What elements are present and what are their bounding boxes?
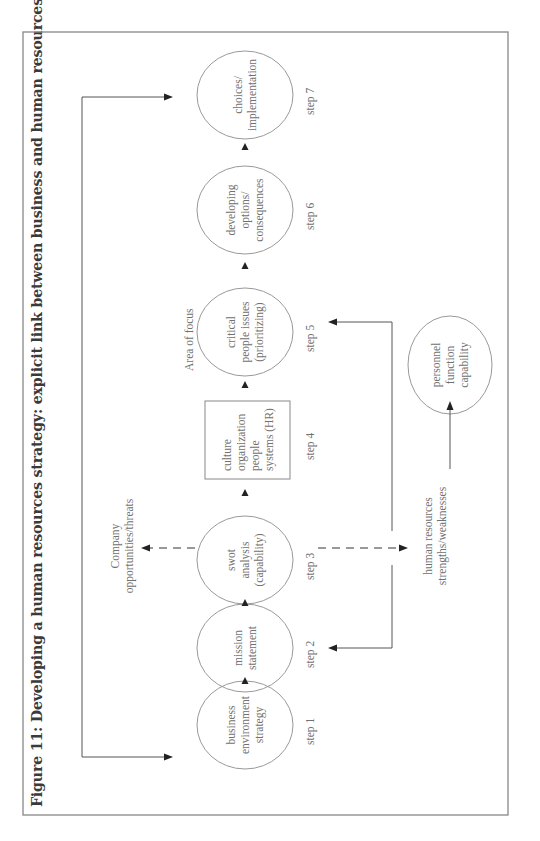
area-of-focus-label: Area of focus: [182, 308, 196, 371]
personnel-line: capability: [457, 342, 471, 387]
step-3-line: (capability): [252, 534, 266, 587]
bottom-bracket-arrow-step5: [328, 319, 337, 326]
step-label-6: step 6: [303, 203, 317, 230]
step-1-line: strategy: [252, 696, 266, 754]
step-label-4: step 4: [303, 433, 317, 460]
step-6-line: consequences: [252, 178, 266, 241]
step-3-line: swot: [224, 534, 238, 587]
top-bracket-arrow-step7: [164, 94, 173, 101]
personnel-line: personnel: [429, 342, 443, 387]
arrow-step5-step6: [242, 262, 249, 269]
top-bracket-line: [82, 97, 170, 757]
step-label-2: step 2: [303, 641, 317, 668]
arrow-step6-step7: [242, 143, 249, 150]
arrow-step4-step5: [242, 381, 249, 388]
step-7-line: choices/: [231, 59, 245, 131]
step-5-text: criticalpeople issues(prioritizing): [197, 288, 293, 376]
step-1-text: businessenvironmentstrategy: [197, 681, 293, 769]
step-3-text: swotanalysis(capability): [197, 516, 293, 604]
arrow-step3-step4: [242, 489, 249, 496]
hr-line: human resources: [421, 476, 435, 596]
step-1-line: business: [224, 696, 238, 754]
step-4-line: culture: [220, 408, 234, 471]
hr-arrowhead: [399, 545, 408, 552]
step-6-text: developingoptions/consequences: [197, 166, 293, 254]
step-5-line: (prioritizing): [252, 302, 266, 363]
step-label-3: step 3: [303, 553, 317, 580]
step-label-1: step 1: [303, 718, 317, 745]
diagram-canvas: Figure 11: Developing a human resources …: [0, 0, 540, 841]
step-label-7: step 7: [303, 88, 317, 115]
company-line: opportunities/threats: [122, 491, 136, 601]
step-7-text: choices/implementation: [197, 51, 293, 139]
company-line: Company: [108, 491, 122, 601]
step-6-line: options/: [238, 178, 252, 241]
company-annotation: Company opportunities/threats: [108, 491, 136, 601]
top-bracket-arrow-step1: [164, 754, 173, 761]
step-5-line: people issues: [238, 302, 252, 363]
company-arrowhead: [141, 545, 150, 552]
bottom-bracket-left: [336, 565, 392, 648]
step-6-line: developing: [224, 178, 238, 241]
step-2-line: statement: [245, 626, 259, 670]
step-4-text: cultureorganizationpeoplesystems (HR): [205, 401, 290, 479]
step-4-line: organization: [234, 408, 248, 471]
hr-annotation: human resources strengths/weaknesses: [421, 476, 449, 596]
hr-line: strengths/weaknesses: [435, 476, 449, 596]
step-4-line: systems (HR): [262, 408, 276, 471]
step-2-text: missionstatement: [197, 604, 293, 692]
step-5-line: critical: [224, 302, 238, 363]
personnel-line: function: [443, 342, 457, 387]
step-4-line: people: [248, 408, 262, 471]
bottom-bracket-arrow-step2: [328, 645, 337, 652]
personnel-text: personnelfunctioncapability: [408, 316, 492, 414]
step-3-line: analysis: [238, 534, 252, 587]
step-1-line: environment: [238, 696, 252, 754]
step-label-5: step 5: [303, 325, 317, 352]
step-7-line: implementation: [245, 59, 259, 131]
step-2-line: mission: [231, 626, 245, 670]
bottom-bracket-right: [336, 322, 392, 531]
